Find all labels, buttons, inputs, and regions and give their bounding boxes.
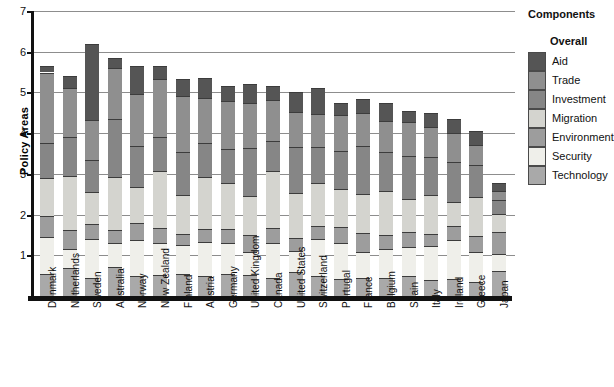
bar-segment-investment <box>402 156 416 199</box>
bar-australia[interactable] <box>108 58 122 296</box>
x-label-australia: Australia <box>116 268 126 308</box>
x-label-greece: Greece <box>477 275 487 308</box>
legend-item-environment[interactable]: Environment <box>528 128 612 147</box>
legend-swatch-investment <box>528 90 546 109</box>
legend-swatch-trade <box>528 71 546 90</box>
y-tick-label-6: 6 <box>4 47 26 57</box>
bar-segment-environment <box>334 227 348 243</box>
legend-title: Components <box>528 8 612 20</box>
legend-item-migration[interactable]: Migration <box>528 109 612 128</box>
bar-segment-migration <box>198 177 212 229</box>
y-tick-label-2: 2 <box>4 210 26 220</box>
bar-belgium[interactable] <box>379 103 393 296</box>
bar-segment-trade <box>108 68 122 119</box>
x-label-germany: Germany <box>229 266 239 308</box>
bar-segment-investment <box>311 147 325 183</box>
bar-italy[interactable] <box>424 113 438 296</box>
bar-segment-investment <box>176 152 190 195</box>
bar-segment-aid <box>108 58 122 69</box>
bar-segment-security <box>402 247 416 276</box>
legend-item-technology[interactable]: Technology <box>528 166 612 185</box>
bar-segment-trade <box>266 100 280 141</box>
bar-segment-security <box>492 254 506 270</box>
bar-segment-migration <box>221 183 235 229</box>
bar-segment-migration <box>492 214 506 232</box>
bar-segment-aid <box>198 78 212 98</box>
x-label-portugal: Portugal <box>342 270 352 308</box>
bar-segment-investment <box>40 143 54 179</box>
y-tick-label-4: 4 <box>4 128 26 138</box>
bar-segment-environment <box>424 234 438 246</box>
bar-segment-migration <box>379 191 393 235</box>
bar-segment-aid <box>176 79 190 96</box>
bar-segment-aid <box>402 111 416 122</box>
bar-segment-investment <box>221 149 235 184</box>
bar-segment-trade <box>221 101 235 149</box>
bar-segment-aid <box>356 99 370 113</box>
bar-segment-environment <box>40 216 54 237</box>
bar-segment-trade <box>130 94 144 146</box>
x-label-switzerland: Switzerland <box>319 255 329 308</box>
bar-portugal[interactable] <box>334 103 348 296</box>
legend-swatch-technology <box>528 166 546 185</box>
x-label-norway: Norway <box>138 274 148 309</box>
bar-segment-trade <box>63 88 77 138</box>
legend: Components Overall AidTradeInvestmentMig… <box>528 8 612 185</box>
legend-item-investment[interactable]: Investment <box>528 90 612 109</box>
bar-segment-environment <box>153 228 167 243</box>
bar-segment-aid <box>266 86 280 100</box>
legend-items: AidTradeInvestmentMigrationEnvironmentSe… <box>528 52 612 185</box>
bar-segment-aid <box>153 66 167 79</box>
x-label-new-zealand: New Zealand <box>161 248 171 308</box>
bar-finland[interactable] <box>176 79 190 296</box>
bar-segment-aid <box>85 44 99 121</box>
bar-segment-aid <box>221 86 235 100</box>
bar-spain[interactable] <box>402 111 416 296</box>
legend-subtitle: Overall <box>550 35 612 47</box>
bar-austria[interactable] <box>198 78 212 296</box>
bar-segment-investment <box>243 148 257 196</box>
legend-label-aid: Aid <box>552 55 568 67</box>
bar-germany[interactable] <box>221 86 235 296</box>
bar-segment-investment <box>289 147 303 194</box>
bar-segment-security <box>130 240 144 277</box>
bar-segment-trade <box>40 73 54 143</box>
bar-japan[interactable] <box>492 183 506 296</box>
bar-segment-migration <box>356 194 370 233</box>
bar-segment-environment <box>266 228 280 243</box>
x-label-united-states: United States <box>297 247 307 308</box>
bar-segment-migration <box>402 199 416 232</box>
legend-label-trade: Trade <box>552 74 580 86</box>
bar-greece[interactable] <box>469 131 483 296</box>
legend-item-security[interactable]: Security <box>528 147 612 166</box>
bar-segment-aid <box>424 113 438 127</box>
bar-segment-security <box>356 252 370 277</box>
bar-segment-trade <box>198 98 212 143</box>
bar-segment-investment <box>198 143 212 178</box>
bar-france[interactable] <box>356 99 370 296</box>
bar-segment-migration <box>130 187 144 223</box>
bar-segment-environment <box>356 233 370 253</box>
bar-norway[interactable] <box>130 66 144 296</box>
y-tick-label-5: 5 <box>4 87 26 97</box>
bar-segment-aid <box>243 84 257 102</box>
gridline-6 <box>34 52 515 53</box>
bar-segment-aid <box>469 131 483 145</box>
bar-segment-trade <box>424 127 438 156</box>
x-label-spain: Spain <box>410 282 420 308</box>
bar-segment-trade <box>447 133 461 162</box>
bar-segment-aid <box>492 183 506 191</box>
bar-segment-migration <box>243 196 257 235</box>
legend-item-trade[interactable]: Trade <box>528 71 612 90</box>
bar-sweden[interactable] <box>85 44 99 296</box>
bar-segment-migration <box>153 171 167 228</box>
legend-swatch-security <box>528 147 546 166</box>
bar-ireland[interactable] <box>447 119 461 296</box>
bar-canada[interactable] <box>266 86 280 296</box>
legend-item-aid[interactable]: Aid <box>528 52 612 71</box>
bar-segment-investment <box>356 146 370 194</box>
bar-denmark[interactable] <box>40 66 54 296</box>
bar-segment-environment <box>176 234 190 245</box>
y-tick-label-1: 1 <box>4 250 26 260</box>
